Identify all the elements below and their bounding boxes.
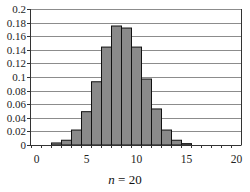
y-tick-label: 0.16 <box>7 30 27 42</box>
bar <box>162 130 172 145</box>
y-tick-label: 0.02 <box>7 125 26 137</box>
bar <box>112 26 122 145</box>
y-tick-label: 0 <box>21 139 27 151</box>
y-tick-label: 0.12 <box>7 57 26 69</box>
bar <box>72 130 82 145</box>
bars <box>52 26 192 145</box>
x-axis-ticks: 05101520 <box>32 145 243 165</box>
x-tick-label: 10 <box>131 153 143 165</box>
bar <box>82 112 92 145</box>
bar <box>62 140 72 145</box>
bar <box>52 143 62 145</box>
x-tick-label: 15 <box>181 153 193 165</box>
bar <box>172 140 182 145</box>
caption-value: 20 <box>129 172 142 187</box>
bar <box>122 28 132 145</box>
x-tick-label: 5 <box>84 153 90 165</box>
x-tick-label: 0 <box>34 153 40 165</box>
bar <box>102 47 112 145</box>
y-tick-label: 0.1 <box>12 71 26 83</box>
y-tick-label: 0.18 <box>7 17 27 29</box>
x-tick-label: 20 <box>231 153 243 165</box>
caption-equals: = <box>118 172 125 187</box>
y-tick-label: 0.2 <box>12 3 26 15</box>
y-axis-ticks: 00.020.040.060.080.10.120.140.160.180.2 <box>7 3 30 151</box>
histogram-chart: 00.020.040.060.080.10.120.140.160.180.2 … <box>0 0 250 192</box>
y-tick-label: 0.08 <box>7 85 27 97</box>
bar <box>142 79 152 145</box>
y-tick-label: 0.06 <box>7 98 27 110</box>
y-tick-label: 0.14 <box>7 44 27 56</box>
x-axis-caption: n = 20 <box>0 172 250 188</box>
y-tick-label: 0.04 <box>7 112 27 124</box>
bar <box>132 47 142 145</box>
caption-variable: n <box>108 172 115 187</box>
bar <box>182 144 192 145</box>
bar <box>152 109 162 145</box>
bar <box>92 82 102 145</box>
